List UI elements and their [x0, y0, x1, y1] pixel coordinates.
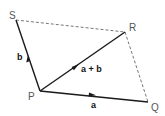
point-label-q: Q — [151, 102, 159, 113]
vector-a-plus-b-arrowhead-icon — [72, 64, 79, 70]
vector-label-a: a — [91, 100, 97, 110]
vector-a-arrowhead-icon — [89, 92, 96, 96]
point-label-s: S — [9, 10, 16, 21]
vector-label-b: b — [17, 52, 23, 62]
dashed-edge-r-q — [125, 32, 148, 102]
point-label-p: P — [28, 91, 35, 102]
vector-a-plus-b-line — [40, 32, 125, 91]
vector-parallelogram-diagram: S R P Q b a + b a — [0, 0, 165, 116]
dashed-edge-s-r — [16, 20, 125, 32]
vector-label-a-plus-b: a + b — [81, 64, 102, 74]
point-label-r: R — [129, 22, 136, 33]
